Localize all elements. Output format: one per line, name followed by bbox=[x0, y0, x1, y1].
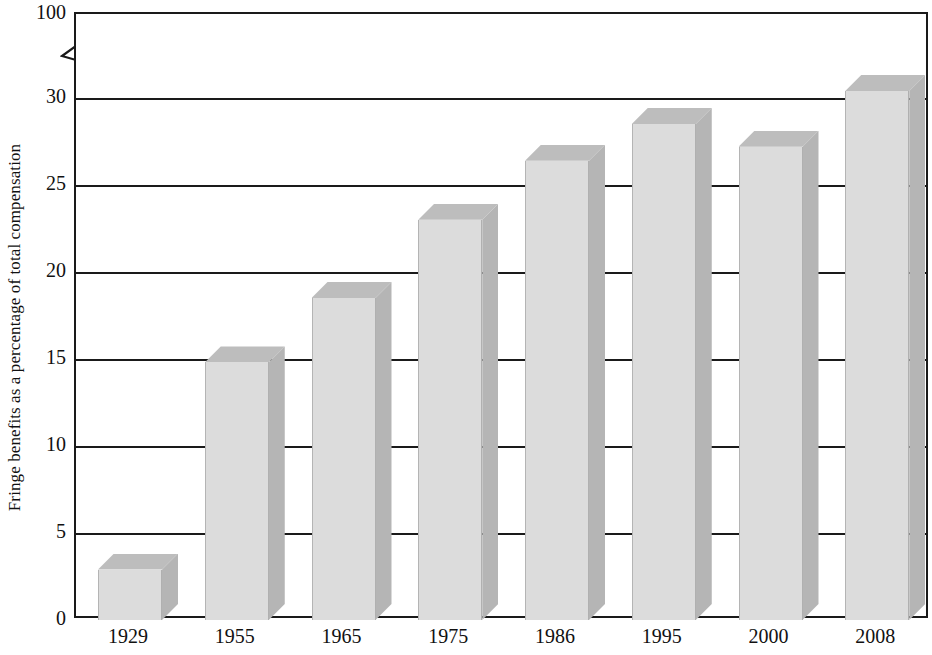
y-tick-label: 100 bbox=[8, 2, 66, 22]
bar-front-face bbox=[98, 570, 162, 620]
y-tick-label: 20 bbox=[8, 260, 66, 280]
bar-front-face bbox=[205, 362, 269, 620]
bar-1986 bbox=[525, 145, 605, 620]
bar-side-face bbox=[482, 204, 498, 620]
y-axis-tick-labels: 051015202530100 bbox=[0, 0, 66, 655]
bar-front-face bbox=[632, 124, 696, 620]
bar-2000 bbox=[739, 131, 819, 620]
bar-front-face bbox=[845, 91, 909, 620]
bar-chart: Fringe benefits as a percentage of total… bbox=[0, 0, 932, 655]
x-tick-label: 1986 bbox=[515, 626, 595, 646]
x-tick-label: 2008 bbox=[835, 626, 915, 646]
x-tick-label: 2000 bbox=[729, 626, 809, 646]
y-tick-label: 25 bbox=[8, 173, 66, 193]
gridline bbox=[76, 98, 926, 100]
bar-side-face bbox=[909, 75, 925, 620]
x-tick-label: 1995 bbox=[622, 626, 702, 646]
bar-side-face bbox=[269, 346, 285, 620]
x-tick-label: 1929 bbox=[88, 626, 168, 646]
bar-side-face bbox=[376, 282, 392, 620]
bar-front-face bbox=[739, 147, 803, 620]
bar-1995 bbox=[632, 108, 712, 620]
bar-front-face bbox=[525, 161, 589, 620]
bar-front-face bbox=[418, 220, 482, 620]
bar-1975 bbox=[418, 204, 498, 620]
bar-side-face bbox=[696, 108, 712, 620]
y-tick-label: 0 bbox=[8, 608, 66, 628]
y-tick-label: 15 bbox=[8, 347, 66, 367]
bar-1929 bbox=[98, 554, 178, 620]
bar-1955 bbox=[205, 346, 285, 620]
y-tick-label: 30 bbox=[8, 86, 66, 106]
x-tick-label: 1955 bbox=[195, 626, 275, 646]
x-tick-label: 1975 bbox=[408, 626, 488, 646]
x-tick-label: 1965 bbox=[302, 626, 382, 646]
bar-1965 bbox=[312, 282, 392, 620]
bar-2008 bbox=[845, 75, 925, 620]
y-tick-label: 5 bbox=[8, 521, 66, 541]
bar-side-face bbox=[803, 131, 819, 620]
bar-side-face bbox=[589, 145, 605, 620]
y-tick-label: 10 bbox=[8, 434, 66, 454]
plot-area bbox=[74, 12, 928, 618]
bar-front-face bbox=[312, 298, 376, 620]
